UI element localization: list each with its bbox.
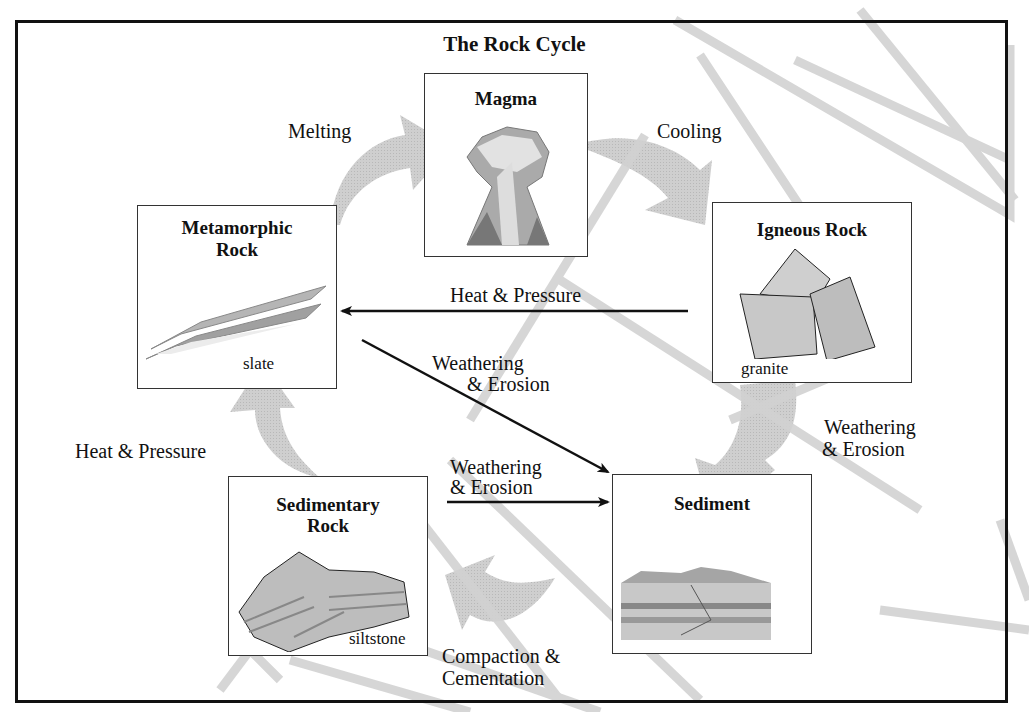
- compaction-label-2: Cementation: [442, 667, 544, 689]
- melting-label: Melting: [288, 120, 351, 142]
- heat-pressure-left-label: Heat & Pressure: [75, 440, 206, 462]
- weathering-diagonal-label-2: & Erosion: [467, 373, 550, 395]
- weathering-right-label-2: & Erosion: [822, 438, 905, 460]
- weathering-mid-label-2: & Erosion: [450, 476, 533, 498]
- weathering-mid-label-1: Weathering: [450, 456, 542, 478]
- weathering-diagonal-label-1: Weathering: [432, 352, 524, 374]
- cooling-label: Cooling: [657, 120, 721, 142]
- compaction-label-1: Compaction &: [442, 645, 560, 667]
- weathering-right-label-1: Weathering: [824, 416, 916, 438]
- heat-pressure-top-label: Heat & Pressure: [450, 284, 581, 306]
